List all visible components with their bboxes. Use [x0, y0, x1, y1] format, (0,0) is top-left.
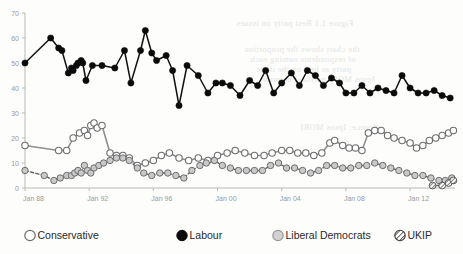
data-point: [323, 162, 329, 168]
x-axis-tick-label: Jan 00: [216, 195, 237, 202]
data-point: [121, 47, 127, 53]
data-point: [420, 142, 426, 148]
data-point: [391, 135, 397, 141]
data-point: [84, 132, 90, 138]
legend-marker-hatched-circle: [395, 230, 405, 240]
data-point: [166, 150, 172, 156]
x-axis-tick-label: Jan 08: [344, 195, 365, 202]
data-point: [299, 167, 305, 173]
data-point: [113, 155, 119, 161]
data-point: [22, 60, 28, 66]
data-point: [141, 170, 147, 176]
data-point: [57, 175, 63, 181]
data-point: [346, 145, 352, 151]
x-axis-tick-label: Jan 92: [87, 195, 108, 202]
data-point: [112, 65, 118, 71]
data-point: [331, 162, 337, 168]
data-point: [165, 170, 171, 176]
data-point: [107, 150, 113, 156]
data-point: [426, 137, 432, 143]
chart-axes: [25, 13, 455, 188]
data-point: [283, 165, 289, 171]
data-point: [279, 80, 285, 86]
data-point: [80, 60, 86, 66]
data-point: [22, 167, 28, 173]
data-point: [149, 172, 155, 178]
data-point: [291, 165, 297, 171]
axis-frame: [25, 13, 455, 188]
data-point: [224, 150, 230, 156]
data-point: [352, 145, 358, 151]
data-point: [399, 137, 405, 143]
data-point: [439, 92, 445, 98]
data-point: [255, 82, 261, 88]
series-lines: [25, 31, 453, 186]
x-axis-tick-label: Jan 12: [408, 195, 429, 202]
data-point: [384, 132, 390, 138]
data-point: [429, 182, 436, 189]
data-point: [100, 160, 106, 166]
data-point: [271, 90, 277, 96]
y-axis-tick-label: 0: [15, 185, 19, 192]
data-point: [450, 127, 456, 133]
data-point: [439, 182, 446, 189]
data-point: [64, 147, 70, 153]
legend-item: Liberal Democrats: [273, 229, 371, 241]
data-point: [89, 62, 95, 68]
data-point: [261, 152, 267, 158]
data-point: [232, 147, 238, 153]
data-point: [176, 155, 182, 161]
data-point: [185, 157, 191, 163]
data-point: [367, 90, 373, 96]
data-point: [407, 85, 413, 91]
x-axis-tick-label: Jan 96: [151, 195, 172, 202]
data-point: [195, 155, 201, 161]
data-point: [433, 135, 439, 141]
data-point: [447, 95, 453, 101]
data-point: [227, 165, 233, 171]
data-point: [320, 82, 326, 88]
data-point: [351, 90, 357, 96]
data-point: [364, 162, 370, 168]
data-point: [242, 150, 248, 156]
legend-item: Labour: [177, 229, 223, 241]
data-point: [48, 35, 54, 41]
data-point: [142, 160, 148, 166]
data-point: [142, 27, 148, 33]
y-axis-tick-labels: 010203040506070: [11, 10, 25, 192]
data-point: [413, 145, 419, 151]
legend-marker-grey-circle: [273, 230, 283, 240]
y-axis-tick-label: 50: [11, 60, 19, 67]
data-point: [153, 57, 159, 63]
data-point: [243, 167, 249, 173]
data-point: [189, 167, 195, 173]
data-point: [336, 80, 342, 86]
data-point: [150, 157, 156, 163]
data-point: [407, 140, 413, 146]
data-point: [251, 167, 257, 173]
data-point: [263, 67, 269, 73]
legend-label: Labour: [190, 229, 223, 241]
legend-item: UKIP: [395, 229, 432, 241]
legend-label: Conservative: [38, 229, 99, 241]
data-point: [375, 85, 381, 91]
data-point: [339, 165, 345, 171]
data-point: [55, 147, 61, 153]
data-point: [296, 82, 302, 88]
series-markers: [22, 27, 457, 189]
legend-label: Liberal Democrats: [286, 229, 371, 241]
data-point: [404, 170, 410, 176]
data-point: [137, 47, 143, 53]
data-point: [134, 165, 140, 171]
data-point: [247, 77, 253, 83]
data-point: [203, 160, 209, 166]
data-point: [259, 167, 265, 173]
data-point: [126, 157, 132, 163]
data-point: [287, 147, 293, 153]
data-point: [120, 155, 126, 161]
data-point: [176, 102, 182, 108]
data-point: [343, 90, 349, 96]
data-point: [303, 150, 309, 156]
data-point: [107, 157, 113, 163]
data-point: [269, 150, 275, 156]
